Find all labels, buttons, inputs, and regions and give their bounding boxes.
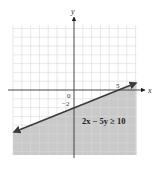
origin-label: 0 [67,92,71,100]
x-intercept-label: 5 [116,82,120,90]
y-axis-label: y [70,7,75,16]
y-intercept-label: −2 [62,100,70,108]
inequality-label: 2x − 5y ≥ 10 [82,116,126,126]
inequality-graph: y x 0 −2 5 2x − 5y ≥ 10 [0,0,156,171]
x-axis-label: x [147,86,152,95]
